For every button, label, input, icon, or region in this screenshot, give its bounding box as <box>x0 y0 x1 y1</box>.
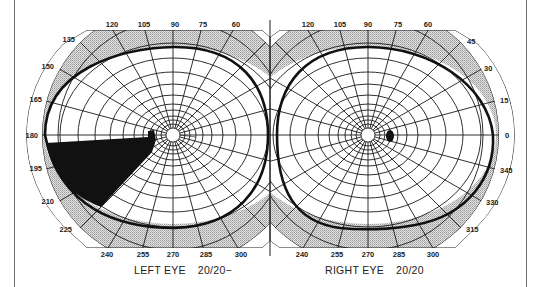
left-eye-acuity: 20/20− <box>198 264 232 276</box>
tick-label: 120 <box>302 20 315 29</box>
right-eye-caption: RIGHT EYE20/20 <box>325 264 424 276</box>
tick-label: 345 <box>500 166 513 175</box>
tick-label: 240 <box>296 250 309 259</box>
left-eye-bottom-ticks: 240 255 270 285 300 <box>101 250 248 259</box>
tick-label: 270 <box>362 250 375 259</box>
tick-label: 45 <box>467 37 475 46</box>
tick-label: 0 <box>505 131 509 140</box>
tick-label: 285 <box>393 250 406 259</box>
tick-label: 75 <box>394 20 402 29</box>
tick-label: 165 <box>29 95 42 104</box>
tick-label: 60 <box>424 20 432 29</box>
tick-label: 330 <box>486 198 499 207</box>
tick-label: 225 <box>59 225 72 234</box>
tick-label: 60 <box>232 20 240 29</box>
tick-label: 180 <box>25 131 38 140</box>
tick-label: 15 <box>500 96 508 105</box>
left-eye-top-ticks: 120 105 90 75 60 <box>106 20 240 29</box>
tick-label: 195 <box>29 164 42 173</box>
tick-label: 150 <box>41 62 54 71</box>
tick-label: 90 <box>171 20 179 29</box>
left-eye-label: LEFT EYE <box>134 264 186 276</box>
tick-label: 300 <box>427 250 440 259</box>
tick-label: 120 <box>106 20 119 29</box>
tick-label: 255 <box>331 250 344 259</box>
tick-label: 270 <box>167 250 180 259</box>
tick-label: 135 <box>62 35 75 44</box>
left-eye-caption: LEFT EYE20/20− <box>134 264 232 276</box>
tick-label: 300 <box>235 250 248 259</box>
tick-label: 315 <box>466 225 479 234</box>
tick-label: 105 <box>334 20 347 29</box>
tick-label: 255 <box>137 250 150 259</box>
tick-label: 90 <box>364 20 372 29</box>
tick-label: 285 <box>200 250 213 259</box>
tick-label: 240 <box>101 250 114 259</box>
visual-field-diagram: 120 105 90 75 60 135 150 165 180 195 210… <box>0 0 540 287</box>
tick-label: 30 <box>484 64 492 73</box>
right-eye-acuity: 20/20 <box>396 264 424 276</box>
right-eye-blind-spot <box>386 130 394 142</box>
tick-label: 210 <box>41 197 54 206</box>
right-eye-bottom-ticks: 240 255 270 285 300 <box>296 250 440 259</box>
right-eye-label: RIGHT EYE <box>325 264 384 276</box>
tick-label: 105 <box>138 20 151 29</box>
tick-label: 75 <box>199 20 207 29</box>
right-eye-top-ticks: 120 105 90 75 60 <box>302 20 432 29</box>
